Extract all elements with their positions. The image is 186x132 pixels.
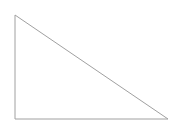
- right-triangle-shape: [15, 15, 168, 119]
- triangle-diagram: Right triangle outline: [0, 0, 186, 132]
- figure-canvas: Right triangle outline: [0, 0, 186, 132]
